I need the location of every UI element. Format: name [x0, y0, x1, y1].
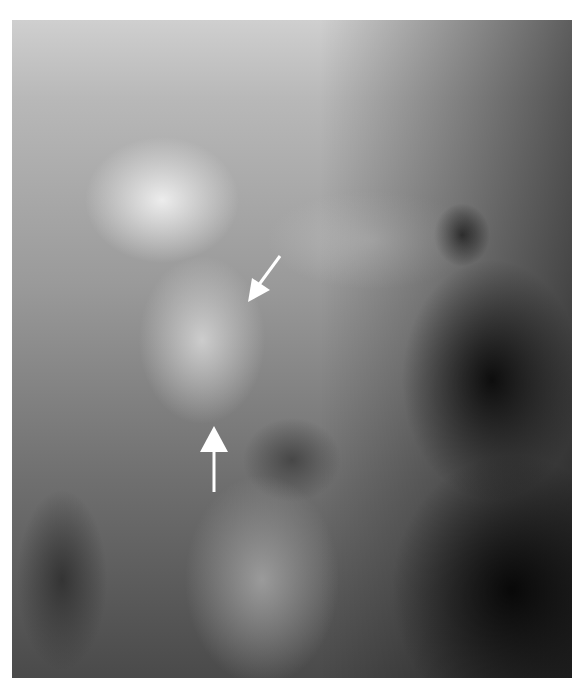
xray-image — [12, 20, 572, 678]
arrow-up-icon — [196, 424, 232, 496]
arrow-down-left-icon — [240, 250, 290, 310]
